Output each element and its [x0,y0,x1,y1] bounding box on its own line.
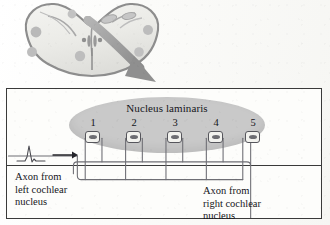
right-axon-line-1: Axon from [203,185,261,198]
laminaris-cell-1 [85,131,100,143]
right-cochlear-axon-label: Axon from right cochlear nucleus [203,185,261,223]
cell-number-1: 1 [85,117,101,128]
cell-number-2: 2 [126,117,142,128]
cell-number-5: 5 [245,117,261,128]
callout-arrow [82,16,172,96]
nucleus-laminaris-diagram: Nucleus laminaris [6,88,322,219]
cell-nucleolus-icon [249,135,257,139]
laminaris-cell-2 [126,131,141,143]
left-axon-line-1: Axon from [15,171,67,184]
left-axon-line-2: left cochlear [15,184,67,197]
right-axon-line-2: right cochlear [203,198,261,211]
action-potential-trace [15,144,87,164]
laminaris-cell-5 [245,131,260,143]
left-axon-line-3: nucleus [15,196,67,209]
cell-nucleolus-icon [171,135,179,139]
cell-nucleolus-icon [89,135,97,139]
cell-nucleolus-icon [130,135,138,139]
cell-number-4: 4 [208,117,224,128]
laminaris-cell-3 [167,131,182,143]
cell-nucleolus-icon [212,135,220,139]
figure-page: Nucleus laminaris [0,0,330,225]
left-cochlear-axon-label: Axon from left cochlear nucleus [15,171,67,209]
propagation-arrow-icon [53,152,78,159]
laminaris-cell-4 [208,131,223,143]
cell-number-3: 3 [167,117,183,128]
right-axon-line-3: nucleus [203,210,261,223]
